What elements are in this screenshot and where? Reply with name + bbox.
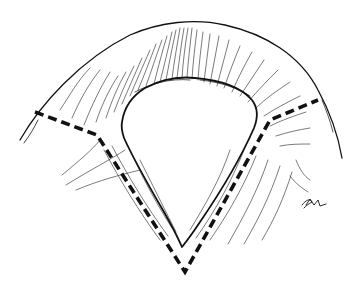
ring-hatching	[60, 28, 310, 146]
incision-dashed-line	[35, 100, 318, 272]
tissue-strands	[62, 140, 310, 244]
outer-contour	[20, 22, 342, 158]
central-opening	[122, 77, 257, 247]
anatomical-illustration	[0, 0, 361, 283]
artist-signature	[302, 199, 326, 208]
